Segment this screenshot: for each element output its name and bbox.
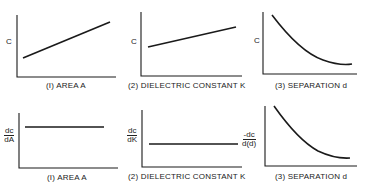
- ylabel-top-2: C: [131, 38, 137, 46]
- ylabel-denominator: dK: [127, 136, 137, 144]
- curve-neg-dcdd: [274, 106, 350, 158]
- xlabel-bottom-3: (3) SEPARATION d: [275, 172, 347, 181]
- capacitance-relationship-diagram: [0, 0, 368, 186]
- curve-c-vs-area: [23, 22, 110, 58]
- axes-bottom-1: [19, 113, 118, 168]
- ylabel-top-1: C: [6, 38, 12, 46]
- xlabel-bottom-2: (2) DIELECTRIC CONSTANT K: [128, 172, 246, 181]
- xlabel-top-3: (3) SEPARATION d: [275, 81, 347, 90]
- xlabel-top-1: (I) AREA A: [46, 81, 86, 90]
- xlabel-top-2: (2) DIELECTRIC CONSTANT K: [128, 81, 246, 90]
- axes-top-1: [17, 15, 116, 77]
- curve-c-vs-k: [148, 27, 236, 47]
- axes-bottom-2: [142, 110, 242, 167]
- curve-c-vs-d: [272, 15, 352, 65]
- ylabel-bottom-2: dc dK: [127, 127, 137, 144]
- xlabel-bottom-1: (I) AREA A: [47, 173, 87, 182]
- axes-top-2: [141, 12, 242, 76]
- ylabel-bottom-1: dc dA: [4, 127, 14, 144]
- ylabel-denominator: dA: [4, 136, 14, 144]
- ylabel-denominator: d(d): [242, 140, 256, 148]
- ylabel-bottom-3: -dc d(d): [242, 131, 256, 148]
- ylabel-top-3: C: [254, 37, 260, 45]
- axes-bottom-3: [265, 106, 357, 166]
